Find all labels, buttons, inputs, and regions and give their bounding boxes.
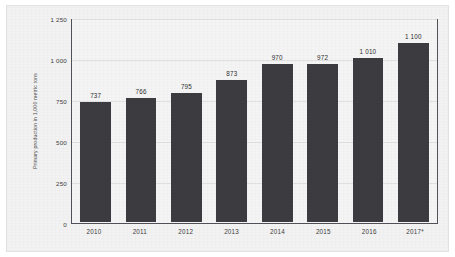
y-axis-tick-label: 0 bbox=[33, 221, 67, 228]
x-axis-tick-label: 2011 bbox=[117, 228, 163, 235]
y-axis-tick-label: 1 000 bbox=[33, 57, 67, 64]
bar[interactable]: 873 bbox=[216, 80, 247, 222]
bar-slot: 970 bbox=[255, 21, 300, 222]
bar-slot: 766 bbox=[118, 21, 163, 222]
bar[interactable]: 795 bbox=[171, 93, 202, 222]
bar-value-label: 795 bbox=[181, 83, 192, 90]
x-axis-tick-label: 2012 bbox=[163, 228, 209, 235]
x-axis-tick-label: 2017* bbox=[392, 228, 438, 235]
x-axis-tick-label: 2010 bbox=[71, 228, 117, 235]
y-axis-tick-labels: 1 2501 0007505002500 bbox=[33, 19, 67, 224]
bar-slot: 873 bbox=[209, 21, 254, 222]
bar-slot: 972 bbox=[300, 21, 345, 222]
bar-slot: 1 010 bbox=[345, 21, 390, 222]
bar-value-label: 737 bbox=[90, 92, 101, 99]
x-axis-tick-label: 2013 bbox=[209, 228, 255, 235]
bar-value-label: 972 bbox=[317, 54, 328, 61]
bar-value-label: 766 bbox=[136, 88, 147, 95]
chart-figure: Primary production in 1,000 metric tons … bbox=[0, 0, 455, 257]
bar[interactable]: 1 010 bbox=[353, 58, 384, 222]
bar-slot: 1 100 bbox=[391, 21, 436, 222]
bar-series: 7377667958739709721 0101 100 bbox=[73, 21, 436, 222]
chart-card: Primary production in 1,000 metric tons … bbox=[6, 5, 449, 252]
y-axis-tick-label: 1 250 bbox=[33, 16, 67, 23]
bar[interactable]: 737 bbox=[80, 102, 111, 222]
bar-value-label: 970 bbox=[272, 54, 283, 61]
x-axis-tick-label: 2016 bbox=[346, 228, 392, 235]
bar[interactable]: 970 bbox=[262, 64, 293, 222]
plot-area: 7377667958739709721 0101 100 bbox=[71, 19, 438, 224]
bar[interactable]: 972 bbox=[307, 64, 338, 222]
bar-slot: 737 bbox=[73, 21, 118, 222]
x-axis-tick-labels: 20102011201220132014201520162017* bbox=[71, 228, 438, 235]
gridline bbox=[72, 19, 437, 20]
y-axis-tick-label: 750 bbox=[33, 98, 67, 105]
bar-slot: 795 bbox=[164, 21, 209, 222]
y-axis-tick-label: 250 bbox=[33, 180, 67, 187]
bar[interactable]: 1 100 bbox=[398, 43, 429, 222]
x-axis-tick-label: 2015 bbox=[300, 228, 346, 235]
bar-value-label: 1 100 bbox=[405, 33, 422, 40]
x-axis-tick-label: 2014 bbox=[255, 228, 301, 235]
bar[interactable]: 766 bbox=[126, 98, 157, 222]
bar-value-label: 873 bbox=[226, 70, 237, 77]
bar-value-label: 1 010 bbox=[360, 48, 377, 55]
y-axis-tick-label: 500 bbox=[33, 139, 67, 146]
